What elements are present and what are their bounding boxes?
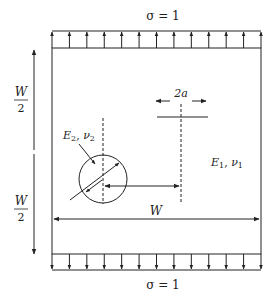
bottom-load-label: σ = 1 xyxy=(146,278,180,292)
matrix-material-label: E1, ν1 xyxy=(210,156,243,170)
crack-length-label: 2a xyxy=(173,87,188,100)
plate xyxy=(52,48,261,254)
svg-text:2: 2 xyxy=(18,211,25,224)
plate-diagram: σ = 1 σ = 1 W 2 W 2 2a xyxy=(0,0,276,301)
top-load-arrows xyxy=(52,31,261,48)
crack xyxy=(156,101,208,204)
inclusion-material-label: E2, ν2 xyxy=(62,129,95,143)
svg-text:W: W xyxy=(15,194,29,208)
width-label: W xyxy=(150,204,164,218)
svg-text:2: 2 xyxy=(18,102,25,115)
top-load-label: σ = 1 xyxy=(146,9,180,23)
bottom-load-arrows xyxy=(52,254,261,270)
half-width-label-bottom: W 2 xyxy=(14,194,29,224)
half-width-label-top: W 2 xyxy=(14,85,29,115)
svg-text:W: W xyxy=(15,85,29,99)
